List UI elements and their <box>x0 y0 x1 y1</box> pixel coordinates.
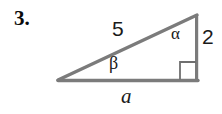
label-base-leg-length: a <box>121 86 132 107</box>
label-angle-alpha: α <box>171 25 180 42</box>
label-angle-beta: β <box>109 54 118 72</box>
figure-page: 3. 5 2 a α β <box>0 0 222 114</box>
right-angle-marker-icon <box>180 62 196 80</box>
label-vertical-leg-length: 2 <box>202 26 214 47</box>
problem-number: 3. <box>14 8 30 29</box>
label-hypotenuse-length: 5 <box>112 18 124 39</box>
